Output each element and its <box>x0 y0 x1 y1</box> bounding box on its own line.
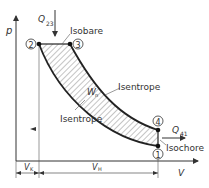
point-2-marker: 2 <box>26 39 36 50</box>
svg-text:3: 3 <box>76 41 81 50</box>
x-axis: V <box>16 161 198 178</box>
point-4-dot <box>156 128 161 133</box>
svg-text:23: 23 <box>46 20 54 27</box>
point-1-dot <box>156 144 161 149</box>
svg-text:1: 1 <box>156 151 161 160</box>
svg-text:2: 2 <box>29 41 34 50</box>
svg-text:Isentrope: Isentrope <box>60 114 103 124</box>
heat-out-label: Q 41 <box>162 125 188 138</box>
svg-text:Q: Q <box>172 125 179 135</box>
small-arrow <box>30 127 36 131</box>
point-3-marker: 3 <box>73 39 83 50</box>
svg-text:Isochore: Isochore <box>166 143 205 153</box>
svg-text:Isentrope: Isentrope <box>118 82 161 92</box>
vh-dimension: V H <box>39 163 158 175</box>
svg-text:4: 4 <box>156 118 161 127</box>
x-axis-label: V <box>178 168 185 178</box>
vk-dimension: V K <box>16 163 39 175</box>
heat-in-label: Q 23 <box>38 10 55 36</box>
work-area <box>39 44 158 146</box>
isobare-label: Isobare <box>62 26 104 44</box>
y-axis-label: p <box>5 25 12 36</box>
svg-text:H: H <box>98 166 102 172</box>
isochore-label: Isochore <box>160 140 205 153</box>
svg-text:Q: Q <box>38 14 45 24</box>
svg-text:n: n <box>95 92 98 98</box>
point-4-marker: 4 <box>153 116 163 127</box>
point-3-dot <box>68 42 73 47</box>
isentrope-upper-label: Isentrope <box>105 82 161 95</box>
svg-text:K: K <box>30 166 34 172</box>
point-2-dot <box>37 42 42 47</box>
pv-diagram: p V 2 3 4 1 Q 23 Isobare <box>0 0 209 188</box>
svg-text:41: 41 <box>180 130 188 137</box>
point-1-marker: 1 <box>153 149 163 160</box>
y-axis: p <box>5 16 16 161</box>
svg-text:Isobare: Isobare <box>70 26 104 36</box>
